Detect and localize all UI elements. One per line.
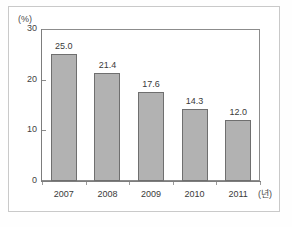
bar-chart-figure: (%) 0102030 25.021.417.614.312.0 2007200… xyxy=(0,0,292,227)
bar-value-label: 17.6 xyxy=(131,79,171,89)
x-tick-mark xyxy=(86,182,87,185)
bar xyxy=(182,109,208,181)
bar-value-label: 12.0 xyxy=(218,107,258,117)
x-tick-mark xyxy=(129,182,130,185)
bar-value-label: 21.4 xyxy=(87,60,127,70)
bar-value-label: 14.3 xyxy=(175,96,215,106)
bar xyxy=(138,92,164,181)
bar xyxy=(225,120,251,181)
bar-value-label: 25.0 xyxy=(44,41,84,51)
x-axis-line xyxy=(41,181,261,182)
x-tick-mark xyxy=(216,182,217,185)
y-tick-label: 20 xyxy=(18,75,37,84)
x-tick-label: 2007 xyxy=(42,189,86,200)
y-tick-label-text: 20 xyxy=(18,75,37,84)
y-tick-label: 10 xyxy=(18,125,37,134)
x-axis-unit-label: (년) xyxy=(258,189,272,200)
x-tick-label: 2011 xyxy=(216,189,260,200)
x-tick-mark xyxy=(42,182,43,185)
y-tick-label-text: 10 xyxy=(18,125,37,134)
x-tick-label: 2010 xyxy=(173,189,217,200)
x-tick-label: 2009 xyxy=(129,189,173,200)
x-tick-mark xyxy=(260,182,261,185)
bar xyxy=(94,73,120,181)
bars-layer xyxy=(42,29,260,181)
x-tick-mark xyxy=(173,182,174,185)
bar xyxy=(51,54,77,181)
y-tick-label-text: 30 xyxy=(18,24,37,33)
y-tick-label: 30 xyxy=(18,24,37,33)
x-tick-label: 2008 xyxy=(85,189,129,200)
y-tick-label: 0 xyxy=(18,176,37,185)
y-tick-label-text: 0 xyxy=(18,176,37,185)
